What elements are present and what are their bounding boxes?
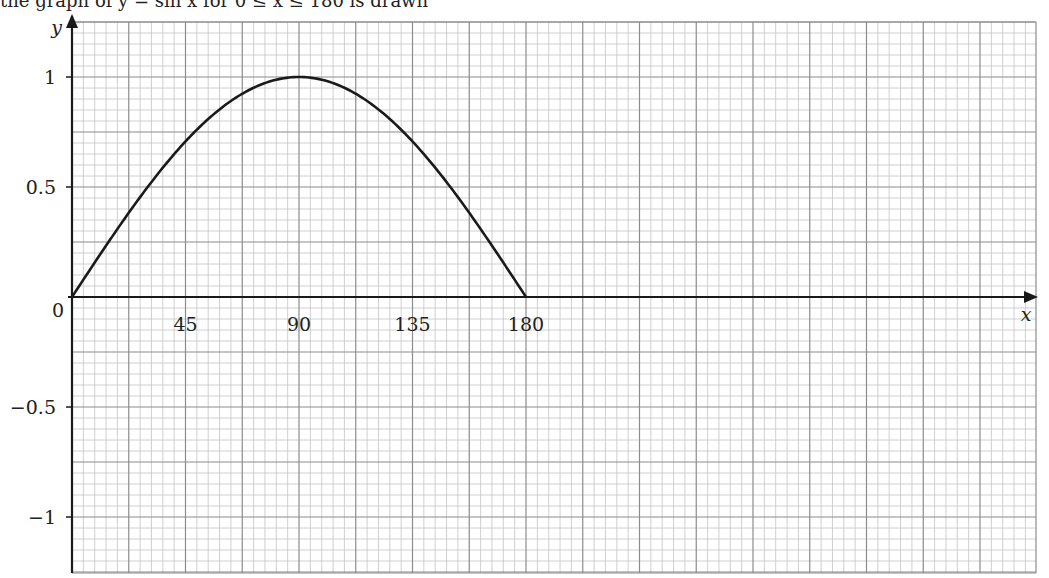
y-tick-label: −0.5 bbox=[10, 396, 56, 418]
y-axis-label: y bbox=[50, 16, 62, 38]
x-tick-label: 0 bbox=[52, 299, 64, 321]
axes bbox=[66, 14, 1038, 573]
sine-graph: 0459013518010.5−0.5−1xy bbox=[0, 0, 1049, 578]
x-tick-label: 90 bbox=[287, 313, 311, 335]
x-axis-label: x bbox=[1021, 303, 1032, 325]
x-tick-label: 45 bbox=[173, 313, 197, 335]
y-axis-arrow-icon bbox=[66, 14, 78, 28]
y-tick-label: 0.5 bbox=[26, 176, 56, 198]
y-tick-label: −1 bbox=[28, 506, 56, 528]
x-tick-label: 135 bbox=[394, 313, 430, 335]
y-tick-label: 1 bbox=[44, 66, 56, 88]
x-tick-label: 180 bbox=[508, 313, 544, 335]
